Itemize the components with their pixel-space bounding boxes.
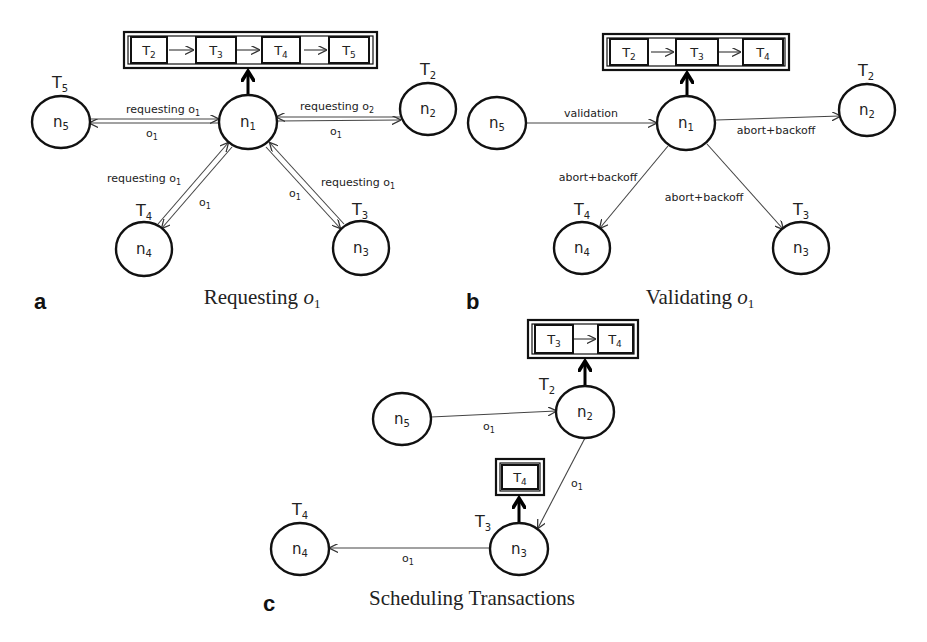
edge-n5-n2: o1 [431, 411, 556, 435]
node-n3: n3 T3 [474, 512, 548, 575]
tx-label: T4 [135, 201, 152, 222]
queue-n3: T4 [496, 459, 544, 495]
svg-text:o1: o1 [146, 127, 158, 142]
svg-text:o1: o1 [330, 125, 342, 140]
node-n4: n4 T4 [116, 201, 172, 276]
svg-text:requesting o2: requesting o2 [300, 100, 374, 115]
tx-label: T2 [857, 61, 874, 82]
svg-text:o1: o1 [571, 477, 583, 492]
panel-caption: Requesting o1 [204, 285, 321, 311]
node-n4: n4 T4 [554, 200, 610, 274]
node-n1: n1 [657, 96, 715, 150]
svg-text:requesting o1: requesting o1 [107, 172, 181, 187]
tx-label: T4 [573, 200, 590, 221]
edge-n2-n1: requesting o2 o1 [277, 100, 400, 140]
queue-item: T3 [676, 39, 718, 65]
node-n5: n5 [468, 97, 526, 149]
node-n2: n2 T2 [839, 61, 895, 136]
svg-text:o1: o1 [402, 552, 414, 567]
node-n3: n3 T3 [773, 200, 829, 274]
node-n2: n2 T2 [538, 375, 614, 438]
tx-label: T2 [419, 60, 436, 81]
edge-n1-n2: abort+backoff [716, 116, 840, 137]
tx-label: T2 [538, 375, 555, 396]
edge-n1-n3: abort+backoff [665, 144, 783, 229]
queue-item: T5 [329, 37, 369, 63]
queue-item: T2 [131, 37, 167, 63]
tx-label: T3 [474, 512, 491, 533]
edge-n3-n4: o1 [330, 548, 490, 567]
edge-n5-n1: requesting o1 o1 [90, 103, 218, 142]
svg-text:validation: validation [564, 107, 618, 120]
edge-n3-n1: requesting o1 o1 [266, 143, 395, 228]
queue-n1: T2 T3 T4 [603, 34, 789, 70]
svg-text:abort+backoff: abort+backoff [665, 191, 744, 204]
edge-n5-n1: validation [526, 107, 656, 123]
panel-a: T2 T3 T4 T5 requesting o1 o1 [32, 32, 456, 314]
queue-item: T3 [535, 325, 573, 353]
panel-b: T2 T3 T4 validation abort+backoff abort+… [466, 34, 895, 314]
queue-item: T4 [743, 39, 783, 65]
node-n4: n4 T4 [271, 500, 329, 575]
node-n3: n3 T3 [333, 200, 389, 275]
node-n1: n1 [219, 95, 277, 149]
svg-text:o1: o1 [483, 420, 495, 435]
panel-letter: b [466, 289, 479, 314]
tx-label: T3 [351, 200, 368, 221]
tx-label: T4 [291, 500, 308, 521]
panel-letter: c [263, 591, 275, 616]
svg-text:abort+backoff: abort+backoff [737, 124, 816, 137]
tx-label: T3 [792, 200, 809, 221]
queue-item: T3 [196, 37, 236, 63]
queue-item: T4 [598, 325, 633, 353]
queue-n1: T2 T3 T4 T5 [124, 32, 377, 68]
edge-n4-n1: requesting o1 o1 [107, 143, 232, 228]
node-n5: n5 T5 [32, 73, 90, 148]
panel-caption: Validating o1 [646, 285, 755, 311]
node-n5: n5 [373, 393, 431, 445]
queue-n2: T3 T4 [528, 320, 638, 358]
panel-caption: Scheduling Transactions [369, 586, 575, 610]
figure-canvas: T2 T3 T4 T5 requesting o1 o1 [0, 0, 927, 642]
queue-item: T4 [502, 465, 538, 489]
node-n2: n2 T2 [400, 60, 456, 135]
tx-label: T5 [51, 73, 68, 94]
svg-text:abort+backoff: abort+backoff [559, 171, 638, 184]
panel-letter: a [34, 289, 47, 314]
svg-text:o1: o1 [289, 187, 301, 202]
svg-text:requesting o1: requesting o1 [321, 176, 395, 191]
svg-text:o1: o1 [199, 196, 211, 211]
queue-item: T2 [610, 39, 648, 65]
svg-text:requesting o1: requesting o1 [126, 103, 200, 118]
panel-c: T3 T4 T4 o1 o1 o1 [263, 320, 638, 616]
queue-item: T4 [262, 37, 300, 63]
